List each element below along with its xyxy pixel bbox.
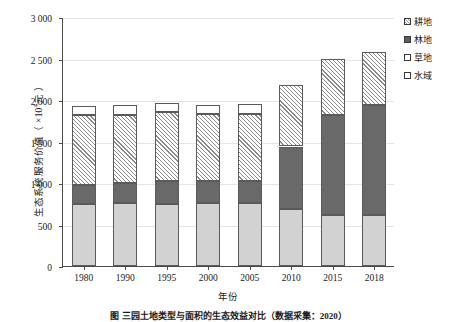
y-axis-tick-label: 500 [38, 222, 52, 232]
x-axis-tick [208, 266, 209, 270]
x-axis-tick [125, 266, 126, 270]
y-axis-tick: 1 000 [59, 184, 63, 185]
x-axis-tick [374, 266, 375, 270]
bar-segment-grassland[interactable] [155, 103, 179, 113]
stacked-bar[interactable] [238, 104, 262, 266]
bar-segment-farmland[interactable] [321, 59, 345, 115]
bar-segment-farmland[interactable] [238, 114, 262, 181]
bar-segment-farmland[interactable] [196, 114, 220, 181]
x-axis-tick-label: 2018 [365, 273, 384, 283]
grass-white-swatch-icon [404, 54, 411, 61]
stacked-bar[interactable] [362, 52, 386, 266]
legend-item-grassland[interactable]: 草地 [404, 48, 457, 66]
x-axis-tick [84, 266, 85, 270]
y-axis-tick-label: 1 500 [31, 139, 52, 149]
forest-dark-swatch-icon [404, 36, 411, 43]
y-axis-tick-label: 1 000 [31, 180, 52, 190]
bar-segment-water[interactable] [155, 204, 179, 266]
bar-segment-forest[interactable] [238, 181, 262, 203]
x-axis-title: 年份 [62, 289, 394, 303]
bar-segment-farmland[interactable] [362, 52, 386, 105]
bar-segment-farmland[interactable] [72, 115, 96, 185]
bar-segment-farmland[interactable] [113, 115, 137, 183]
legend-label-grassland: 草地 [414, 51, 432, 64]
legend-label-water: 水域 [414, 69, 432, 82]
y-axis-tick: 500 [59, 226, 63, 227]
x-axis-tick [250, 266, 251, 270]
bar-segment-water[interactable] [72, 204, 96, 266]
x-axis-tick [167, 266, 168, 270]
bar-segment-water[interactable] [238, 203, 262, 266]
legend-item-farmland[interactable]: 耕地 [404, 12, 457, 30]
y-axis-tick-label: 0 [47, 263, 52, 273]
bar-segment-water[interactable] [279, 209, 303, 266]
water-white-swatch-icon [404, 72, 411, 79]
bar-segment-water[interactable] [321, 215, 345, 266]
legend-label-farmland: 耕地 [414, 15, 432, 28]
x-axis-tick [333, 266, 334, 270]
bar-segment-grassland[interactable] [196, 105, 220, 114]
bar-segment-grassland[interactable] [113, 105, 137, 115]
farm-hatch-swatch-icon [404, 18, 411, 25]
figure-caption: 图 三园土地类型与面积的生态效益对比（数据采集：2020） [0, 309, 457, 322]
y-axis-title-main: 生态系统服务价值（ ×10 [34, 107, 44, 217]
stacked-bar[interactable] [72, 106, 96, 266]
bar-segment-forest[interactable] [321, 115, 345, 215]
legend: 耕地 林地 草地 水域 [404, 12, 457, 84]
y-axis-tick-label: 3 000 [31, 14, 52, 24]
bar-segment-water[interactable] [196, 203, 220, 266]
plot-area: 05001 0001 5002 0002 5003 000 1980199019… [62, 18, 394, 267]
x-axis-tick-label: 1990 [116, 273, 135, 283]
stacked-bar[interactable] [155, 103, 179, 266]
legend-item-forest[interactable]: 林地 [404, 30, 457, 48]
x-axis-tick-label: 1980 [74, 273, 93, 283]
bar-segment-forest[interactable] [72, 185, 96, 205]
x-axis-tick-label: 2015 [323, 273, 342, 283]
bar-segment-farmland[interactable] [155, 112, 179, 180]
y-axis-tick: 3 000 [59, 18, 63, 19]
stacked-bar[interactable] [279, 85, 303, 266]
bar-segment-farmland[interactable] [279, 85, 303, 146]
bar-segment-forest[interactable] [155, 181, 179, 205]
bar-segment-forest[interactable] [113, 183, 137, 204]
bar-segment-grassland[interactable] [72, 106, 96, 115]
bar-segment-water[interactable] [362, 215, 386, 266]
stacked-bar[interactable] [321, 59, 345, 266]
bar-segment-grassland[interactable] [238, 104, 262, 114]
bar-segment-forest[interactable] [279, 147, 303, 210]
stacked-bar[interactable] [196, 105, 220, 266]
y-axis-title: 生态系统服务价值（ ×104元 ） [31, 49, 45, 249]
bar-segment-forest[interactable] [362, 105, 386, 215]
x-axis-tick-label: 2000 [199, 273, 218, 283]
y-axis-tick: 1 500 [59, 143, 63, 144]
y-axis-tick-label: 2 000 [31, 97, 52, 107]
x-axis-tick-label: 2005 [240, 273, 259, 283]
y-axis-tick: 2 000 [59, 101, 63, 102]
y-axis-tick-label: 2 500 [31, 56, 52, 66]
y-axis-tick: 2 500 [59, 60, 63, 61]
bar-segment-water[interactable] [113, 203, 137, 266]
y-axis-tick: 0 [59, 267, 63, 268]
gridline [63, 18, 394, 19]
x-axis-tick-label: 1995 [157, 273, 176, 283]
stacked-bar[interactable] [113, 105, 137, 266]
x-axis-tick-label: 2010 [282, 273, 301, 283]
legend-label-forest: 林地 [414, 33, 432, 46]
bar-segment-forest[interactable] [196, 181, 220, 203]
legend-item-water[interactable]: 水域 [404, 66, 457, 84]
x-axis-tick [291, 266, 292, 270]
